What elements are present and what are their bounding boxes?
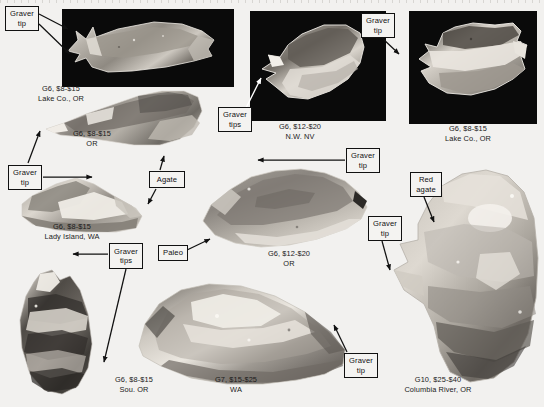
caption-lake-co-or-top: G6, $8-$15 Lake Co., OR xyxy=(8,84,114,103)
callout-paleo[interactable]: Paleo xyxy=(158,245,188,261)
caption-wa-bottom: G7, $15-$25 WA xyxy=(188,375,284,394)
callout-graver-tip-right[interactable]: Graver tip xyxy=(368,216,402,241)
callout-graver-tips-midtop[interactable]: Graver tips xyxy=(218,107,252,132)
callout-graver-tips-bottomleft[interactable]: Graver tips xyxy=(109,243,143,269)
artifact-or-center xyxy=(197,163,372,262)
caption-nw-nv: G6, $12-$20 N.W. NV xyxy=(252,122,348,141)
photo-plate-lake-co-or-top xyxy=(62,9,234,87)
callout-graver-tip-topright[interactable]: Graver tip xyxy=(361,13,395,38)
caption-sou-or: G6, $8-$15 Sou. OR xyxy=(86,375,182,394)
callout-graver-tip-center[interactable]: Graver tip xyxy=(346,148,380,173)
artifact-columbia-river-or xyxy=(384,166,544,388)
scan-artifact-line xyxy=(0,0,544,3)
photo-specimen-or-center xyxy=(197,163,372,262)
artifact-lake-co-or-right xyxy=(409,11,537,124)
photo-plate-lake-co-or-right xyxy=(409,11,537,124)
caption-or-center: G6, $12-$20 OR xyxy=(234,249,344,268)
artifact-lake-co-or-top xyxy=(62,9,234,87)
callout-graver-tip-left[interactable]: Graver tip xyxy=(8,165,42,190)
callout-red-agate[interactable]: Red agate xyxy=(410,172,442,197)
caption-lady-island-wa: G6, $8-$15 Lady Island, WA xyxy=(13,222,131,241)
photo-specimen-columbia-river-or xyxy=(384,166,544,388)
caption-or-second: G6, $8-$15 OR xyxy=(49,129,135,148)
caption-lake-co-or-right: G6, $8-$15 Lake Co., OR xyxy=(413,124,523,143)
artifact-plate-page: Graver tip Graver tips Graver tip Graver… xyxy=(0,0,544,407)
caption-columbia-river-or: G10, $25-$40 Columbia River, OR xyxy=(370,375,506,394)
callout-graver-tip-tl[interactable]: Graver tip xyxy=(5,6,39,31)
callout-agate[interactable]: Agate xyxy=(149,171,185,188)
